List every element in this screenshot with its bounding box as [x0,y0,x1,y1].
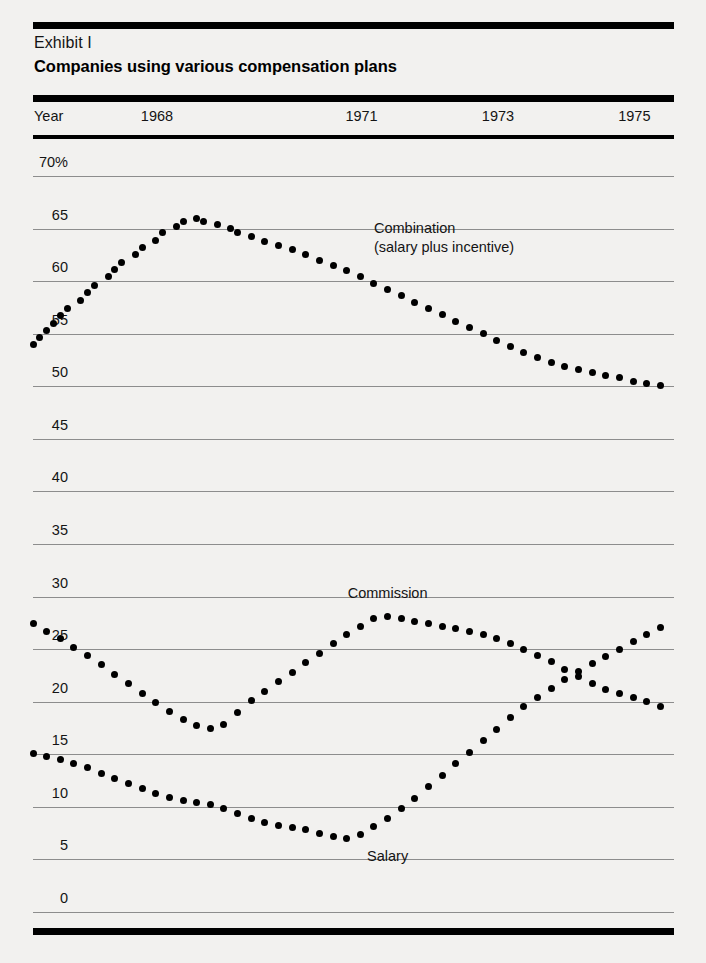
data-point-marker [534,354,541,361]
data-point-marker [466,749,473,756]
data-point-marker [534,652,541,659]
y-tick-label: 35 [22,522,68,538]
series-annotation: Commission [348,584,428,603]
y-tick-label: 10 [22,785,68,801]
data-point-marker [261,238,268,245]
data-point-marker [452,760,459,767]
gridline [33,439,674,440]
data-point-marker [91,282,98,289]
gridline [33,386,674,387]
data-point-marker [466,628,473,635]
data-point-marker [125,680,132,687]
data-point-marker [111,266,118,273]
data-point-marker [643,631,650,638]
data-point-marker [425,620,432,627]
data-point-marker [384,286,391,293]
data-point-marker [630,378,637,385]
data-point-marker [480,330,487,337]
data-point-marker [384,815,391,822]
data-point-marker [180,218,187,225]
data-point-marker [602,686,609,693]
series-annotation: Salary [367,847,408,866]
data-point-marker [616,374,623,381]
gridline [33,544,674,545]
data-point-marker [616,646,623,653]
data-point-marker [589,660,596,667]
data-point-marker [207,725,214,732]
data-point-marker [193,722,200,729]
data-point-marker [520,349,527,356]
data-point-marker [248,233,255,240]
data-point-marker [548,658,555,665]
data-point-marker [493,635,500,642]
data-point-marker [180,716,187,723]
data-point-marker [657,624,664,631]
data-point-marker [343,267,350,274]
data-point-marker [50,320,57,327]
y-tick-label: 30 [22,575,68,591]
data-point-marker [316,650,323,657]
data-point-marker [111,671,118,678]
data-point-marker [561,666,568,673]
data-point-marker [520,703,527,710]
data-point-marker [200,218,207,225]
data-point-marker [630,694,637,701]
exhibit-chart-page: Exhibit I Companies using various compen… [0,0,706,963]
y-tick-label: 70% [22,154,68,170]
gridline [33,807,674,808]
data-point-marker [139,785,146,792]
data-point-marker [302,251,309,258]
data-point-marker [139,690,146,697]
data-point-marker [166,794,173,801]
y-tick-label: 15 [22,732,68,748]
data-point-marker [132,251,139,258]
data-point-marker [248,697,255,704]
data-point-marker [248,815,255,822]
data-point-marker [43,628,50,635]
data-point-marker [36,334,43,341]
bottom-rule [33,928,674,935]
data-point-marker [302,659,309,666]
data-point-marker [343,835,350,842]
data-point-marker [370,823,377,830]
data-point-marker [507,343,514,350]
data-point-marker [30,341,37,348]
gridline [33,334,674,335]
data-point-marker [275,822,282,829]
data-point-marker [616,690,623,697]
data-point-marker [261,688,268,695]
data-point-marker [234,810,241,817]
data-point-marker [330,833,337,840]
data-point-marker [111,775,118,782]
data-point-marker [411,299,418,306]
y-tick-label: 50 [22,364,68,380]
data-point-marker [507,714,514,721]
data-point-marker [452,625,459,632]
data-point-marker [289,669,296,676]
data-point-marker [561,363,568,370]
data-point-marker [370,615,377,622]
data-point-marker [220,805,227,812]
data-point-marker [357,831,364,838]
data-point-marker [139,244,146,251]
data-point-marker [452,318,459,325]
gridline [33,912,674,913]
data-point-marker [159,229,166,236]
y-tick-label: 20 [22,680,68,696]
data-point-marker [84,652,91,659]
data-point-marker [548,685,555,692]
gridline [33,859,674,860]
data-point-marker [439,623,446,630]
data-point-marker [125,780,132,787]
data-point-marker [384,613,391,620]
data-point-marker [575,366,582,373]
data-point-marker [118,259,125,266]
y-tick-label: 60 [22,259,68,275]
y-tick-label: 45 [22,417,68,433]
gridline [33,176,674,177]
data-point-marker [98,661,105,668]
data-point-marker [275,242,282,249]
data-point-marker [643,380,650,387]
data-point-marker [343,631,350,638]
data-point-marker [173,223,180,230]
